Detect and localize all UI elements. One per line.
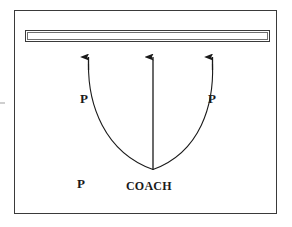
- diagram-canvas: P P P COACH: [0, 0, 292, 227]
- player-label-right: P: [208, 92, 216, 105]
- u-path-left-branch: [88, 64, 153, 170]
- player-label-left: P: [80, 92, 88, 105]
- coach-label: COACH: [126, 180, 172, 192]
- u-path-right-branch: [153, 64, 213, 170]
- player-label-bottom: P: [77, 177, 85, 190]
